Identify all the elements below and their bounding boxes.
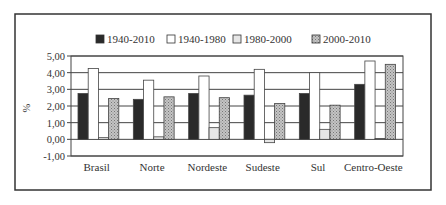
legend-swatch bbox=[96, 35, 104, 43]
bar-1980-2000 bbox=[320, 129, 330, 139]
y-tick-label: 5,00 bbox=[47, 51, 65, 62]
x-category-label: Sudeste bbox=[246, 161, 280, 173]
bar-1940-1980 bbox=[365, 61, 375, 139]
bar-2000-2010 bbox=[164, 97, 174, 140]
x-category-label: Sul bbox=[311, 161, 326, 173]
bar-1980-2000 bbox=[98, 138, 108, 140]
legend-label: 2000-2010 bbox=[323, 33, 371, 45]
bar-2000-2010 bbox=[109, 99, 119, 140]
bar-1940-2010 bbox=[133, 99, 143, 139]
bar-1940-1980 bbox=[144, 80, 154, 139]
bar-1940-2010 bbox=[78, 94, 88, 140]
y-axis-label: % bbox=[21, 103, 32, 112]
y-tick-label: 3,00 bbox=[47, 84, 65, 95]
bar-2000-2010 bbox=[219, 98, 229, 140]
bar-1940-1980 bbox=[254, 69, 264, 139]
legend-swatch bbox=[233, 35, 241, 43]
y-tick-label: 4,00 bbox=[47, 68, 65, 79]
bar-1940-2010 bbox=[189, 94, 199, 140]
legend-swatch bbox=[167, 35, 175, 43]
bar-1980-2000 bbox=[209, 128, 219, 140]
y-tick-label: -1,00 bbox=[43, 151, 65, 162]
bar-1940-2010 bbox=[355, 84, 365, 139]
bar-1940-2010 bbox=[244, 95, 254, 139]
x-category-label: Centro-Oeste bbox=[344, 161, 403, 173]
bar-1980-2000 bbox=[154, 137, 164, 140]
bar-1980-2000 bbox=[264, 139, 274, 142]
bar-1940-1980 bbox=[199, 76, 209, 139]
x-category-label: Nordeste bbox=[187, 161, 227, 173]
y-tick-label: 1,00 bbox=[47, 118, 65, 129]
bar-2000-2010 bbox=[330, 105, 340, 139]
x-category-label: Brasil bbox=[84, 161, 110, 173]
bar-1940-1980 bbox=[88, 69, 98, 140]
bar-2000-2010 bbox=[385, 64, 395, 139]
bar-1940-2010 bbox=[299, 94, 309, 140]
bar-1980-2000 bbox=[375, 139, 385, 140]
y-tick-label: 2,00 bbox=[47, 101, 65, 112]
legend-label: 1980-2000 bbox=[244, 33, 292, 45]
x-category-label: Norte bbox=[139, 161, 164, 173]
legend-label: 1940-1980 bbox=[178, 33, 226, 45]
legend-label: 1940-2010 bbox=[107, 33, 155, 45]
bar-chart: 1940-20101940-19801980-20002000-2010 5,0… bbox=[0, 0, 446, 205]
y-tick-label: 0,00 bbox=[47, 134, 65, 145]
legend-swatch bbox=[312, 35, 320, 43]
bar-1940-1980 bbox=[310, 73, 320, 140]
bar-2000-2010 bbox=[275, 104, 285, 140]
legend: 1940-20101940-19801980-20002000-2010 bbox=[96, 33, 371, 45]
